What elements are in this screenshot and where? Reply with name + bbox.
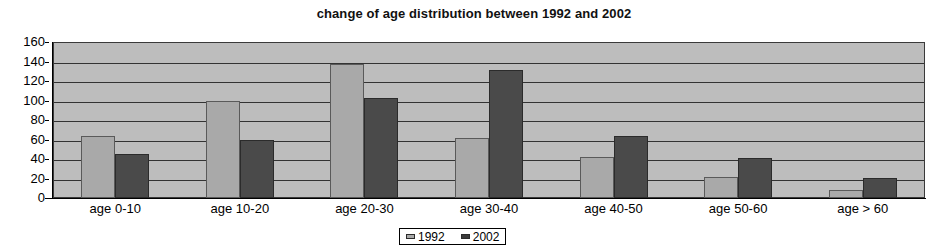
legend-swatch-2002 <box>461 234 470 239</box>
bar-1992-age-0-10 <box>81 136 115 198</box>
x-tick-label: age 40-50 <box>551 201 676 217</box>
x-tick-label: age 30-40 <box>427 201 552 217</box>
x-tick-label: age 20-30 <box>302 201 427 217</box>
y-tick-mark <box>45 120 49 121</box>
y-tick-label: 60 <box>31 133 45 146</box>
x-tick-label: age > 60 <box>800 201 925 217</box>
x-axis-labels: age 0-10age 10-20age 20-30age 30-40age 4… <box>53 201 925 221</box>
x-tick-label: age 0-10 <box>53 201 178 217</box>
bar-2002-age-10-20 <box>240 140 274 199</box>
y-tick-mark <box>45 62 49 63</box>
legend-label-1992: 1992 <box>418 231 445 243</box>
legend-swatch-1992 <box>406 234 415 239</box>
y-axis: 160140120100806040200 <box>0 42 49 198</box>
bar-2002-age-40-50 <box>614 136 648 198</box>
y-tick-mark <box>45 159 49 160</box>
y-tick-label: 40 <box>31 152 45 165</box>
legend-item-1992: 1992 <box>406 231 445 243</box>
bar-2002-age-30-40 <box>489 70 523 198</box>
y-tick-mark <box>45 179 49 180</box>
y-tick-label: 100 <box>23 94 45 107</box>
bar-2002-age->-60 <box>863 178 897 198</box>
bars-layer <box>53 42 925 198</box>
bar-1992-age-40-50 <box>580 157 614 198</box>
bar-1992-age-20-30 <box>330 64 364 198</box>
y-tick-label: 120 <box>23 74 45 87</box>
y-tick-mark <box>45 42 49 43</box>
y-tick-mark <box>45 81 49 82</box>
legend-item-2002: 2002 <box>461 231 500 243</box>
bar-1992-age-30-40 <box>455 138 489 198</box>
bar-1992-age-10-20 <box>206 101 240 199</box>
bar-1992-age-50-60 <box>704 177 738 198</box>
bar-1992-age->-60 <box>829 190 863 198</box>
y-tick-label: 0 <box>38 191 45 204</box>
y-tick-mark <box>45 101 49 102</box>
x-tick-label: age 50-60 <box>676 201 801 217</box>
y-tick-label: 140 <box>23 55 45 68</box>
x-tick-label: age 10-20 <box>178 201 303 217</box>
legend-label-2002: 2002 <box>473 231 500 243</box>
y-tick-mark <box>45 140 49 141</box>
y-tick-label: 20 <box>31 172 45 185</box>
bar-2002-age-20-30 <box>364 98 398 198</box>
chart-legend: 1992 2002 <box>399 228 506 245</box>
bar-chart: change of age distribution between 1992 … <box>0 0 948 252</box>
x-axis-line <box>49 198 926 199</box>
y-tick-label: 80 <box>31 113 45 126</box>
bar-2002-age-50-60 <box>738 158 772 198</box>
chart-title: change of age distribution between 1992 … <box>0 6 948 21</box>
y-tick-label: 160 <box>23 35 45 48</box>
bar-2002-age-0-10 <box>115 154 149 198</box>
